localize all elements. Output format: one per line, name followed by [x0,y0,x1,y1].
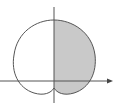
shaded-right-half [54,20,95,94]
polar-curve-diagram [0,0,114,110]
x-axis-arrow-icon [107,79,113,84]
